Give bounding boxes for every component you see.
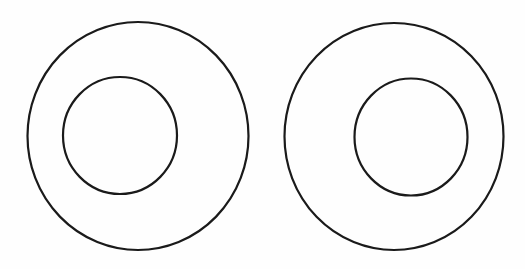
left-inner-circle	[63, 77, 177, 194]
right-outer-circle	[285, 23, 504, 250]
figure-right	[285, 23, 504, 250]
diagram-canvas	[0, 0, 525, 269]
figure-left	[28, 22, 249, 250]
left-outer-circle	[28, 22, 249, 250]
concentric-circles-diagram	[0, 0, 525, 269]
right-inner-circle	[355, 79, 468, 196]
